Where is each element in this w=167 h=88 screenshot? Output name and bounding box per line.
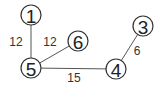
node-3: 3: [133, 16, 153, 38]
edge-weight-5-6: 12: [43, 35, 57, 49]
node-label: 4: [111, 60, 122, 81]
node-5: 5: [21, 58, 41, 80]
edge-weight-5-4: 15: [67, 71, 81, 85]
edge-5-4: [31, 68, 116, 69]
node-6: 6: [68, 31, 88, 53]
node-label: 3: [138, 17, 149, 38]
edge-weight-4-3: 6: [134, 44, 141, 58]
node-label: 1: [26, 6, 37, 27]
edge-weight-1-5: 12: [9, 35, 23, 49]
node-label: 6: [73, 32, 84, 53]
node-label: 5: [26, 59, 37, 80]
node-1: 1: [21, 5, 41, 27]
node-4: 4: [106, 59, 126, 81]
nodes: 1 6 5 4 3: [21, 5, 153, 81]
weighted-graph: 12 12 15 6 1 6 5 4 3: [0, 0, 167, 88]
